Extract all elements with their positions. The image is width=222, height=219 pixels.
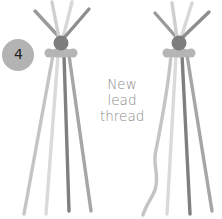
- caption-line-3: thread: [100, 108, 144, 124]
- right-figure-threads: [143, 3, 212, 215]
- caption-line-1: New: [100, 76, 144, 92]
- left-knot: [45, 36, 78, 58]
- right-knot: [163, 36, 196, 58]
- step-number: 4: [3, 39, 34, 70]
- left-figure-threads: [24, 2, 91, 214]
- caption-line-2: lead: [100, 92, 144, 108]
- new-lead-thread-caption: New lead thread: [100, 76, 144, 124]
- macrame-step-diagram: 4 New lead thread: [0, 0, 222, 219]
